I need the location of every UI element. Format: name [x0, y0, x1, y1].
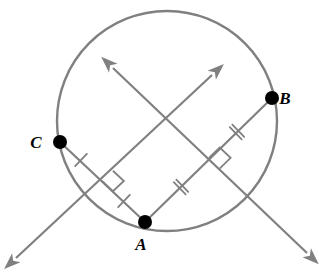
point-label-C: C	[30, 133, 42, 152]
point-label-B: B	[278, 89, 290, 108]
point-B	[265, 91, 279, 105]
point-label-A: A	[134, 235, 146, 254]
point-C	[53, 135, 67, 149]
right-angle-at-midpoint-AB	[209, 148, 231, 169]
geometry-canvas: A B C	[0, 0, 324, 279]
point-A	[138, 215, 152, 229]
geometry-figure: A B C	[0, 0, 324, 279]
